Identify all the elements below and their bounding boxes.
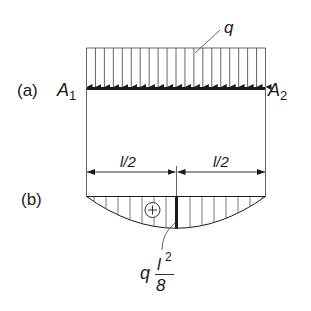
load-label: q [224, 18, 234, 37]
svg-text:8: 8 [156, 276, 166, 295]
panel-a-label: (a) [17, 81, 38, 100]
load-leader-line [195, 30, 220, 53]
moment-diagram [87, 196, 266, 229]
panel-b-label: (b) [21, 190, 42, 209]
dimension-left-label: l/2 [120, 153, 137, 170]
dimension-line [87, 166, 265, 197]
beam-moment-diagram: q (a) A1 A2 l/2 l/2 (b) q l [0, 0, 311, 311]
dimension-right-label: l/2 [213, 153, 230, 170]
max-moment-label: q l 2 8 [140, 250, 174, 295]
support-a1-label: A1 [56, 80, 76, 103]
svg-text:q: q [140, 263, 150, 283]
load-arrows [87, 48, 266, 87]
svg-text:2: 2 [165, 250, 172, 264]
max-moment-leader [162, 223, 175, 250]
positive-sign-icon [145, 203, 160, 218]
support-a2-label: A2 [267, 80, 287, 103]
distributed-load [87, 48, 266, 87]
svg-text:l: l [157, 255, 162, 274]
